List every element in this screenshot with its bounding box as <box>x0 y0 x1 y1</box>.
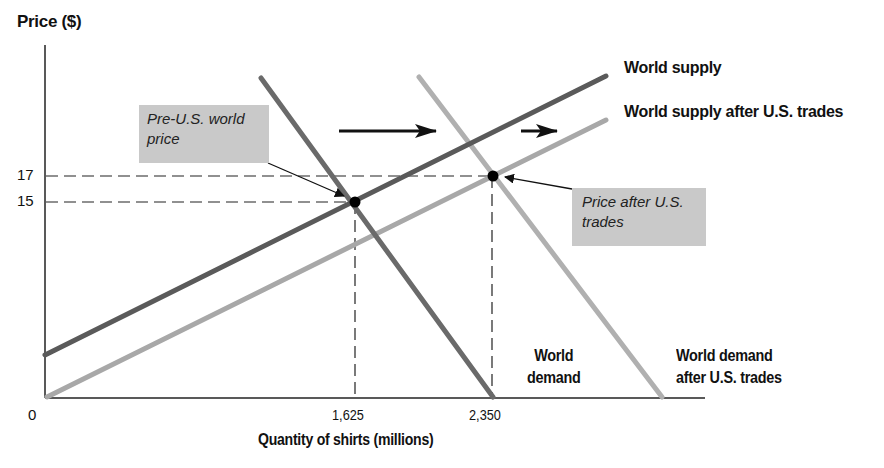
label-world-demand-after-line1: World demand <box>676 345 782 367</box>
x-tick-origin: 0 <box>28 406 36 423</box>
callout-pre-us-world-price: Pre-U.S. world price <box>139 105 269 163</box>
y-tick-17: 17 <box>17 166 34 183</box>
label-world-demand-line2: demand <box>527 367 581 389</box>
label-world-supply-after: World supply after U.S. trades <box>624 103 843 121</box>
callout-pre-line2: price <box>147 129 261 149</box>
world-supply-after-curve <box>47 120 606 397</box>
chart-canvas <box>0 0 884 468</box>
callout-price-after-us-trades: Price after U.S. trades <box>572 188 706 246</box>
x-axis-title: Quantity of shirts (millions) <box>258 431 433 449</box>
label-world-demand: World demand <box>527 345 581 389</box>
equilibrium-point-pre <box>350 197 361 208</box>
label-world-supply: World supply <box>624 59 721 77</box>
callout-pre-line1: Pre-U.S. world <box>147 109 261 129</box>
label-world-demand-after: World demand after U.S. trades <box>676 345 782 389</box>
callout-after-line2: trades <box>582 212 698 232</box>
y-tick-15: 15 <box>17 192 34 209</box>
callout-after-line1: Price after U.S. <box>582 192 698 212</box>
label-world-demand-line1: World <box>527 345 581 367</box>
y-axis-title: Price ($) <box>17 12 81 32</box>
callout-after-pointer <box>505 177 572 189</box>
x-tick-2350: 2,350 <box>469 406 501 423</box>
equilibrium-point-after <box>488 171 499 182</box>
x-tick-1625: 1,625 <box>332 406 364 423</box>
label-world-demand-after-line2: after U.S. trades <box>676 367 782 389</box>
